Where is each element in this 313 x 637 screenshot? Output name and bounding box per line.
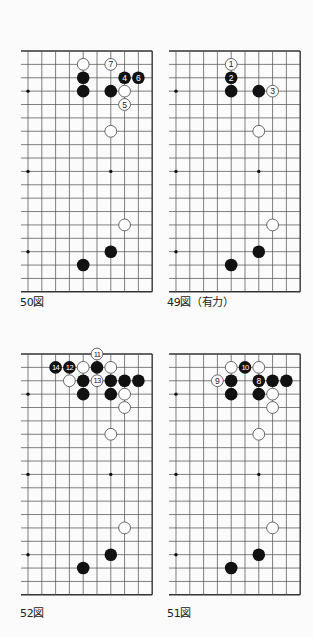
white-stone: [105, 428, 117, 440]
move-number: 14: [52, 363, 60, 372]
white-stone: [119, 85, 131, 97]
star-point: [174, 473, 177, 476]
move-number: 1: [229, 59, 234, 69]
move-number: 2: [229, 73, 234, 83]
black-stone: [225, 374, 238, 387]
black-stone: [252, 388, 265, 401]
move-number: 10: [241, 363, 249, 372]
black-stone: [252, 245, 265, 258]
black-stone: [118, 374, 131, 387]
board-51: 1098: [159, 344, 310, 605]
move-number: 13: [93, 376, 101, 385]
white-stone: [119, 402, 131, 414]
white-stone: 3: [267, 85, 279, 97]
white-stone: [77, 58, 89, 70]
white-stone: [119, 388, 131, 400]
black-stone: 10: [239, 361, 252, 374]
white-stone: [105, 125, 117, 137]
black-stone: 6: [132, 71, 145, 84]
white-stone: [253, 428, 265, 440]
move-number: 8: [256, 376, 261, 386]
move-number: 7: [108, 59, 113, 69]
black-stone: [266, 374, 279, 387]
black-stone: [225, 85, 238, 98]
black-stone: [77, 259, 90, 272]
black-stone: [104, 374, 117, 387]
board-49: 123: [159, 41, 310, 302]
star-point: [174, 170, 177, 173]
star-point: [109, 473, 112, 476]
black-stone: 8: [252, 374, 265, 387]
white-stone: [105, 361, 117, 373]
star-point: [26, 170, 29, 173]
go-board-grid: 123: [159, 41, 310, 302]
white-stone: [225, 361, 237, 373]
star-point: [257, 170, 260, 173]
caption-50: 50図: [20, 293, 44, 309]
black-stone: [91, 361, 104, 374]
move-number: 11: [94, 350, 101, 359]
white-stone: [267, 522, 279, 534]
go-board-grid: 11141213: [11, 344, 162, 605]
white-stone: [253, 361, 265, 373]
white-stone: 1: [225, 58, 237, 70]
white-stone: [267, 402, 279, 414]
black-stone: 12: [63, 361, 76, 374]
move-number: 12: [66, 363, 74, 372]
move-number: 4: [122, 73, 127, 83]
caption-51: 51図: [167, 604, 191, 620]
white-stone: 7: [105, 58, 117, 70]
black-stone: 14: [49, 361, 62, 374]
white-stone: [63, 375, 75, 387]
black-stone: [225, 562, 238, 575]
black-stone: [104, 548, 117, 561]
black-stone: [225, 259, 238, 272]
black-stone: [252, 548, 265, 561]
star-point: [174, 250, 177, 253]
white-stone: 5: [119, 99, 131, 111]
black-stone: [252, 85, 265, 98]
white-stone: [119, 219, 131, 231]
move-number: 6: [136, 73, 141, 83]
star-point: [26, 392, 29, 395]
star-point: [26, 89, 29, 92]
star-point: [109, 170, 112, 173]
star-point: [174, 392, 177, 395]
black-stone: 2: [225, 71, 238, 84]
black-stone: [77, 388, 90, 401]
black-stone: 4: [118, 71, 131, 84]
move-number: 5: [122, 100, 127, 110]
white-stone: 9: [211, 375, 223, 387]
star-point: [26, 553, 29, 556]
star-point: [257, 473, 260, 476]
white-stone: [267, 388, 279, 400]
black-stone: [132, 374, 145, 387]
go-board-grid: 1098: [159, 344, 310, 605]
black-stone: [77, 374, 90, 387]
white-stone: [119, 522, 131, 534]
star-point: [26, 250, 29, 253]
white-stone: [267, 219, 279, 231]
caption-49: 49図（有力）: [167, 293, 234, 309]
star-point: [174, 89, 177, 92]
black-stone: [104, 245, 117, 258]
black-stone: [77, 562, 90, 575]
black-stone: [104, 388, 117, 401]
star-point: [174, 553, 177, 556]
black-stone: [104, 85, 117, 98]
move-number: 9: [215, 376, 220, 386]
star-point: [26, 473, 29, 476]
black-stone: [280, 374, 293, 387]
caption-52: 52図: [20, 604, 44, 620]
white-stone: [77, 361, 89, 373]
black-stone: [77, 85, 90, 98]
go-board-grid: 7465: [11, 41, 162, 302]
board-50: 7465: [11, 41, 162, 302]
board-52: 11141213: [11, 344, 162, 605]
black-stone: [77, 71, 90, 84]
white-stone: [253, 125, 265, 137]
white-stone: 11: [91, 348, 103, 360]
black-stone: [225, 388, 238, 401]
white-stone: 13: [91, 375, 103, 387]
move-number: 3: [270, 86, 275, 96]
